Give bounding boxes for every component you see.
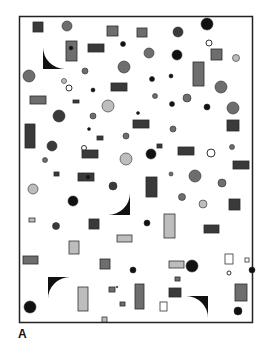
rect-dark <box>88 44 104 52</box>
circle-outline <box>207 149 215 157</box>
dot-black <box>86 175 90 179</box>
circle-gray <box>215 81 227 93</box>
square-dark <box>33 22 43 32</box>
dot-black <box>69 46 73 50</box>
circle-black <box>186 260 198 272</box>
circle-gray <box>218 179 226 187</box>
circle-black <box>201 18 213 30</box>
dot-black <box>116 286 118 288</box>
rect-tall-circle <box>25 124 35 148</box>
circle-gray <box>230 145 235 150</box>
square-dark <box>89 219 99 229</box>
circle-dark <box>68 196 78 206</box>
rect-small <box>54 172 59 176</box>
circle-light <box>233 55 240 62</box>
rect-light-outline <box>117 235 132 242</box>
rect-with-dot <box>169 288 181 297</box>
circle-half-light <box>28 184 38 194</box>
panel-label: A <box>18 327 27 341</box>
square-dark <box>137 28 147 37</box>
dot-black <box>88 128 91 131</box>
circle-gray <box>23 70 35 82</box>
circle-gray <box>82 68 88 74</box>
figure-frame <box>20 17 253 323</box>
rect-small <box>157 144 162 148</box>
circle-gray <box>43 158 48 163</box>
rect-tall-circle <box>193 62 204 86</box>
rect-dark <box>82 150 98 158</box>
square-light-outline <box>102 317 107 322</box>
rect-dark <box>178 147 194 155</box>
circle-gray <box>170 126 176 132</box>
rect-gray <box>23 256 38 264</box>
rect-dark <box>204 225 219 233</box>
circle-black <box>234 307 242 315</box>
rect-dark <box>111 83 127 91</box>
rect-tall-circle <box>235 284 247 301</box>
circle-gray <box>118 61 130 73</box>
circle-gray <box>189 170 201 182</box>
square-outline <box>225 254 233 264</box>
rect-small <box>175 277 180 281</box>
square-outline <box>160 302 167 311</box>
circle-gray <box>144 48 154 58</box>
circle-gray <box>123 133 129 139</box>
rect-dark <box>30 96 46 104</box>
square-dark <box>229 199 240 210</box>
circle-outline <box>206 40 212 46</box>
circle-half <box>172 50 182 60</box>
circle-dark <box>53 223 60 230</box>
rect-dark <box>233 161 249 169</box>
square-dark <box>227 120 239 131</box>
circle-outline-small <box>227 271 231 275</box>
rect-small-outlined <box>109 287 115 292</box>
circle-dark <box>109 182 117 190</box>
rect-with-dot <box>66 41 77 61</box>
circle-gray <box>169 172 173 176</box>
dot-black <box>170 102 175 107</box>
dot-black <box>130 267 136 273</box>
square-dark <box>211 49 222 60</box>
rect-small <box>73 100 79 103</box>
rect-dark <box>133 120 149 128</box>
rect-tall-outline <box>164 214 175 238</box>
dot-black <box>91 88 95 92</box>
circle-half-light <box>120 153 132 165</box>
rect-light-outline <box>169 261 184 268</box>
circle-gray <box>62 79 67 84</box>
circle-dark <box>146 149 156 159</box>
rect-small-light <box>29 218 35 222</box>
circle-outline <box>66 85 72 91</box>
stimulus-figure <box>0 0 266 347</box>
rect-tall-light <box>78 287 88 311</box>
rect-tall-circle <box>135 284 144 309</box>
dot-black <box>169 74 173 78</box>
dot-black <box>150 77 155 82</box>
circle-dark <box>47 141 57 151</box>
dot-black <box>144 220 150 226</box>
circle-gray <box>227 102 239 114</box>
circle-gradient <box>62 21 72 31</box>
rect-small <box>97 136 103 140</box>
rect-small <box>120 302 125 306</box>
circle-gray <box>153 94 158 99</box>
square-outline-small <box>245 258 249 262</box>
circle-dark <box>53 110 65 122</box>
circle-gray <box>183 94 191 102</box>
dot-black <box>137 112 140 115</box>
circle-half-light <box>102 100 114 112</box>
rect-tall <box>146 177 157 197</box>
dot-black <box>121 42 126 47</box>
square-gray <box>100 259 110 269</box>
circle-gray <box>199 200 207 208</box>
rect-dark <box>107 26 118 36</box>
circle-black <box>24 301 36 313</box>
circle-gray <box>179 194 186 201</box>
dot-black <box>249 267 255 273</box>
circle-dark <box>173 27 183 37</box>
circle-gray <box>90 113 96 119</box>
rect-light-outline <box>69 241 79 254</box>
dot-black <box>204 104 210 110</box>
